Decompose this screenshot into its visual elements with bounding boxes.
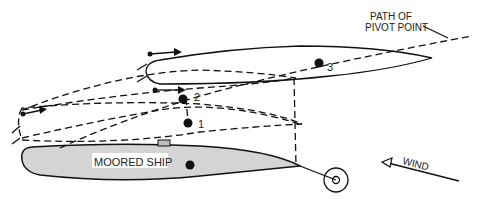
ship-maneuver-diagram: MOORED SHIP (0, 0, 477, 199)
pivot-point-icon (315, 59, 324, 68)
path-label-line2: PIVOT POINT (365, 22, 428, 33)
pivot-point-path (60, 26, 472, 148)
ship-position-1-outline (19, 103, 303, 142)
pivot-point-1: 1 (184, 118, 205, 130)
thrust-arrow-icon (153, 86, 187, 94)
pivot-point-2: 2 (179, 91, 201, 104)
anchor-buoy (300, 166, 348, 192)
wind-indicator: WIND (382, 155, 459, 181)
path-label-line1: PATH OF (370, 11, 412, 22)
pivot-number-2: 2 (194, 91, 200, 103)
gangway-icon (158, 140, 170, 146)
pivot-point-icon (179, 95, 188, 104)
pivot-number-1: 1 (198, 118, 204, 130)
moored-pivot-point-icon (186, 161, 195, 170)
wind-arrow-icon (382, 158, 392, 167)
pivot-number-3: 3 (327, 61, 333, 73)
moored-ship-label: MOORED SHIP (94, 156, 172, 168)
thrust-arrow-icon (148, 48, 183, 57)
pivot-point-icon (184, 119, 193, 128)
stern-wash-marks (12, 64, 147, 144)
path-label: PATH OF PIVOT POINT (365, 11, 428, 33)
